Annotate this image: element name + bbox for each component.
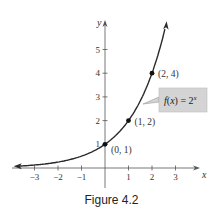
curve-path bbox=[18, 29, 165, 166]
function-curve bbox=[14, 21, 169, 169]
y-tick-label: 4 bbox=[96, 68, 101, 78]
x-tick-label: 2 bbox=[150, 172, 155, 182]
x-tick-label: −3 bbox=[30, 172, 40, 182]
function-label-callout: f(x) = 2x bbox=[143, 88, 207, 112]
data-point bbox=[150, 71, 155, 76]
point-label: (2, 4) bbox=[158, 69, 179, 80]
point-label: (1, 2) bbox=[135, 117, 156, 128]
curve-top-arrow-icon bbox=[163, 21, 169, 30]
y-tick-label: 5 bbox=[96, 45, 101, 55]
x-tick-label: −2 bbox=[53, 172, 63, 182]
labeled-points: (0, 1)(1, 2)(2, 4) bbox=[103, 69, 179, 156]
y-tick-label: 3 bbox=[96, 92, 101, 102]
data-point bbox=[103, 142, 108, 147]
point-label: (0, 1) bbox=[111, 145, 132, 156]
function-label: f(x) = 2x bbox=[164, 94, 198, 107]
y-axis-label: y bbox=[96, 17, 102, 28]
exponential-graph: xy−3−2−112312345 (0, 1)(1, 2)(2, 4) f(x)… bbox=[0, 0, 223, 200]
x-tick-label: −1 bbox=[77, 172, 87, 182]
data-point bbox=[126, 118, 131, 123]
x-tick-label: 3 bbox=[173, 172, 178, 182]
figure-caption: Figure 4.2 bbox=[0, 193, 223, 207]
callout-pointer bbox=[143, 97, 159, 104]
x-axis-label: x bbox=[201, 169, 207, 180]
x-tick-label: 1 bbox=[126, 172, 131, 182]
y-tick-label: 2 bbox=[96, 116, 101, 126]
